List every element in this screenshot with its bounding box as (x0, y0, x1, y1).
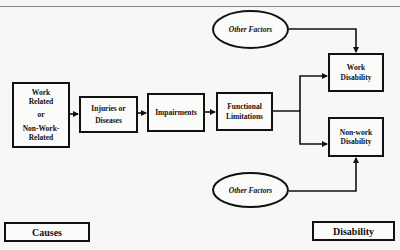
node-nonwork-disability: Non-work Disability (328, 117, 384, 157)
arrow-functional-to-work (273, 76, 327, 111)
node-text: Injuries or (91, 104, 125, 113)
node-text: Limitations (226, 112, 263, 121)
section-label-disability: Disability (312, 221, 395, 241)
node-text: Work (23, 88, 60, 97)
node-text: Impairments (155, 108, 197, 117)
node-text: Non-work (340, 128, 373, 137)
node-injuries-or-diseases: Injuries or Diseases (79, 96, 138, 133)
node-text: Other Factors (229, 186, 273, 195)
node-impairments: Impairments (147, 93, 205, 132)
node-text: Functional (226, 102, 263, 111)
node-text: Related (23, 133, 60, 142)
arrow-otherfactors-to-nonwork (289, 158, 356, 191)
node-text: Disability (340, 137, 373, 146)
section-label-causes: Causes (4, 222, 90, 242)
arrow-functional-to-nonwork (300, 111, 327, 144)
node-other-factors-bottom: Other Factors (212, 172, 289, 208)
arrow-otherfactors-to-work (289, 29, 356, 52)
node-functional-limitations: Functional Limitations (216, 92, 273, 131)
node-work-or-nonwork-related: Work Related or Non-Work- Related (12, 82, 70, 148)
section-label-text: Causes (32, 227, 62, 238)
node-text: Diseases (91, 116, 125, 125)
node-text: Work (341, 63, 372, 72)
node-other-factors-top: Other Factors (212, 10, 289, 49)
node-text: Related (23, 97, 60, 106)
node-text: Non-Work- (23, 124, 60, 133)
node-text: or (23, 110, 60, 119)
node-text: Disability (341, 73, 372, 82)
disability-model-diagram: Work Related or Non-Work- Related Injuri… (0, 0, 400, 250)
section-label-text: Disability (333, 226, 374, 237)
node-text: Other Factors (229, 25, 273, 34)
node-work-disability: Work Disability (328, 53, 384, 92)
